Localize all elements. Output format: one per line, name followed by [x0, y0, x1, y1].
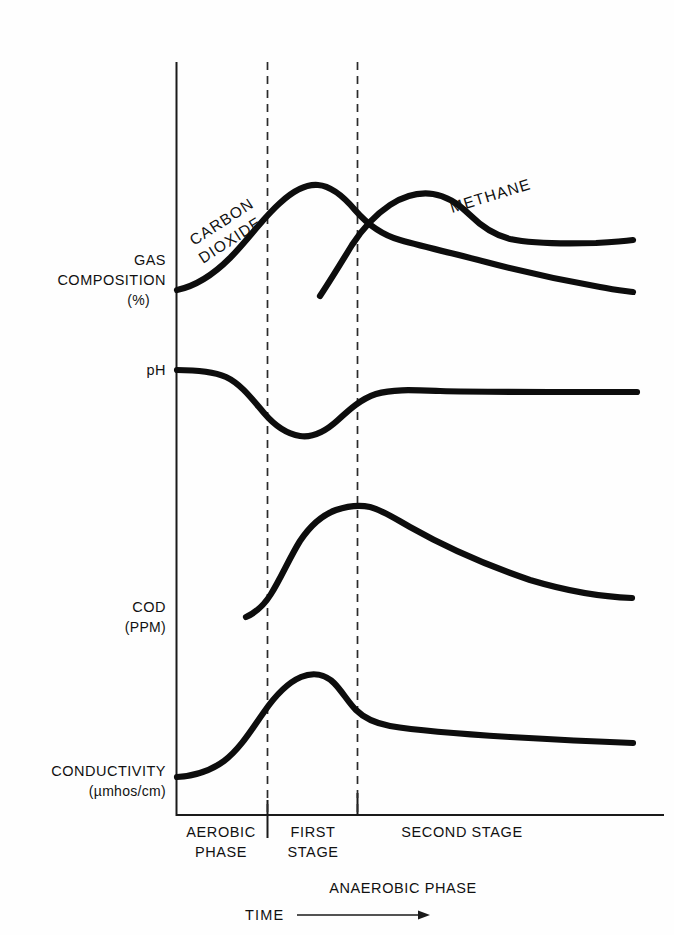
phase-label-group: AEROBIC PHASE FIRST STAGE SECOND STAGE A… — [186, 824, 522, 896]
curve-conductivity — [177, 674, 633, 777]
phase-label-second-stage: SECOND STAGE — [401, 824, 522, 840]
time-arrow-head — [418, 911, 430, 920]
figure-canvas: CARBON DIOXIDE METHANE GAS COMPOSITION (… — [0, 0, 674, 935]
curve-label-methane: METHANE — [448, 175, 533, 216]
axis-label-gas-composition-line2: COMPOSITION — [57, 272, 166, 288]
time-label: TIME — [245, 907, 284, 923]
phase-label-anaerobic: ANAEROBIC PHASE — [329, 880, 477, 896]
axis-label-conductivity-line1: CONDUCTIVITY — [51, 763, 166, 779]
time-axis-group: TIME — [245, 907, 430, 923]
panel-ph: pH — [146, 362, 637, 436]
axis-label-cod-units: (PPM) — [125, 619, 166, 635]
curve-methane — [320, 193, 633, 296]
panel-cod: COD (PPM) — [125, 506, 632, 635]
curve-cod — [246, 506, 632, 617]
axis-label-gas-composition-line1: GAS — [134, 252, 166, 268]
phase-label-first-stage-line2: STAGE — [287, 844, 338, 860]
axis-label-cod-line1: COD — [132, 599, 166, 615]
axes-group — [177, 62, 665, 838]
axis-label-ph: pH — [146, 362, 166, 378]
curve-ph — [177, 370, 637, 436]
phase-label-aerobic-line1: AEROBIC — [186, 824, 255, 840]
phase-label-first-stage-line1: FIRST — [291, 824, 336, 840]
phase-label-aerobic-line2: PHASE — [195, 844, 247, 860]
axis-label-gas-composition-units: (%) — [127, 292, 150, 308]
stacked-line-chart: CARBON DIOXIDE METHANE GAS COMPOSITION (… — [0, 0, 674, 935]
axis-label-conductivity-units: (µmhos/cm) — [89, 783, 166, 799]
panel-conductivity: CONDUCTIVITY (µmhos/cm) — [51, 674, 633, 799]
panel-gas-composition: CARBON DIOXIDE METHANE GAS COMPOSITION (… — [57, 175, 633, 308]
